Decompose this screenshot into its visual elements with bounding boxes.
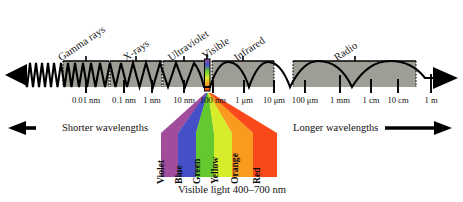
shorter-wavelengths-arrow	[8, 121, 36, 135]
tick-label-2: 1 nm	[143, 95, 160, 105]
tick-label-8: 1 mm	[330, 95, 350, 105]
color-label-green: Green	[191, 159, 202, 184]
right-arrow-icon	[433, 67, 458, 89]
tick-label-5: 1 μm	[235, 95, 253, 105]
color-label-red: Red	[251, 167, 262, 184]
tick-label-4: 100 nm	[200, 95, 226, 105]
color-label-blue: Blue	[173, 165, 184, 184]
color-label-yellow: Yellow	[209, 157, 220, 184]
tick-label-9: 1 cm	[363, 95, 380, 105]
electromagnetic-spectrum-figure: Gamma rays X-rays Ultraviolet Visible In…	[0, 0, 463, 202]
tick-label-10: 10 cm	[387, 95, 408, 105]
color-label-orange: Orange	[229, 153, 240, 184]
tick-label-0: 0.01 nm	[72, 95, 100, 105]
shorter-wavelengths-label: Shorter wavelengths	[62, 122, 148, 133]
longer-wavelengths-arrow	[385, 121, 452, 135]
left-arrow-icon	[5, 64, 27, 86]
tick-label-3: 10 nm	[173, 95, 195, 105]
tick-label-1: 0.1 nm	[112, 95, 136, 105]
longer-wavelengths-label: Longer wavelengths	[293, 122, 378, 133]
tick-label-7: 100 μm	[292, 95, 318, 105]
tick-label-6: 10 μm	[263, 95, 285, 105]
color-label-violet: Violet	[155, 160, 166, 184]
visible-light-caption: Visible light 400–700 nm	[178, 184, 286, 195]
tick-label-11: 1 m	[424, 95, 437, 105]
